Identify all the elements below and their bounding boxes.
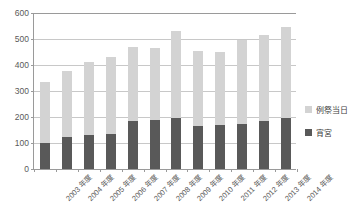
bar-segment-reisai-toujitsu [84,62,94,135]
gridline-300 [34,91,296,92]
bar-segment-yoimiya [193,126,203,169]
bar-column [193,51,203,169]
y-axis-tick-600 [31,13,34,14]
legend-swatch-icon [305,106,312,113]
y-axis-tick-500 [31,39,34,40]
legend-label: 例祭当日 [316,104,348,115]
x-axis-labels: 2003 年度2004 年度2005 年度2006 年度2007 年度2008 … [0,172,362,219]
bar-column [150,48,160,169]
gridline-100 [34,143,296,144]
y-axis-label: 100 [1,139,29,147]
bar-segment-yoimiya [150,120,160,169]
gridline-500 [34,39,296,40]
bar-column [237,40,247,169]
y-axis-tick-200 [31,117,34,118]
legend-item[interactable]: 宵宮 [305,127,362,138]
y-axis-label: 300 [1,87,29,95]
bar-segment-reisai-toujitsu [40,82,50,143]
bar-segment-reisai-toujitsu [106,57,116,134]
gridline-600 [34,13,296,14]
y-axis-label: 600 [1,9,29,17]
bar-column [171,31,181,169]
bar-segment-reisai-toujitsu [62,71,72,137]
bar-segment-reisai-toujitsu [128,47,138,121]
bar-segment-reisai-toujitsu [193,51,203,126]
gridline-400 [34,65,296,66]
bar-column [84,62,94,169]
bar-column [281,27,291,169]
chart-legend: 例祭当日宵宮 [305,104,362,150]
chart-title [60,0,340,6]
bar-segment-yoimiya [128,121,138,169]
y-axis-tick-400 [31,65,34,66]
legend-item[interactable]: 例祭当日 [305,104,362,115]
bar-column [62,71,72,169]
bar-segment-yoimiya [62,137,72,170]
bar-segment-reisai-toujitsu [259,35,269,121]
bar-segment-yoimiya [281,118,291,169]
bar-segment-reisai-toujitsu [150,48,160,120]
bar-segment-yoimiya [40,143,50,169]
y-axis-label: 400 [1,61,29,69]
y-axis-label: 500 [1,35,29,43]
bar-column [128,47,138,169]
legend-label: 宵宮 [316,127,332,138]
y-axis-label: 200 [1,113,29,121]
bar-column [215,52,225,169]
legend-swatch-icon [305,129,312,136]
y-axis: 0100200300400500600 [0,14,29,170]
bar-column [106,57,116,169]
bar-column [40,82,50,169]
stacked-column-chart: 0100200300400500600 2003 年度2004 年度2005 年… [0,0,362,219]
bar-segment-reisai-toujitsu [171,31,181,118]
bar-segment-yoimiya [237,124,247,170]
bar-column [259,35,269,169]
gridline-200 [34,117,296,118]
bar-segment-yoimiya [171,118,181,169]
bar-segment-yoimiya [259,121,269,169]
bar-segment-yoimiya [215,125,225,169]
plot-area [33,14,296,170]
bar-segment-reisai-toujitsu [215,52,225,125]
y-axis-tick-100 [31,143,34,144]
bar-segment-reisai-toujitsu [237,40,247,123]
y-axis-tick-300 [31,91,34,92]
bar-segment-yoimiya [84,135,94,169]
bar-segment-yoimiya [106,134,116,169]
bar-segment-reisai-toujitsu [281,27,291,118]
